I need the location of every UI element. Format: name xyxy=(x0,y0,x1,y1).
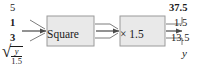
radicand: y 1.5 xyxy=(10,46,23,64)
multiply-box: × 1.5 xyxy=(120,25,165,41)
output-value-1: 37.5 xyxy=(169,3,187,14)
output-value-3: 13.5 xyxy=(171,33,189,44)
input-value-1: 5 xyxy=(10,3,15,14)
square-box: Square xyxy=(47,25,94,41)
square-box-label: Square xyxy=(47,28,79,40)
function-machine-figure: 5 1 3 √ y 1.5 Square × 1.5 37.5 1.5 13.5… xyxy=(0,0,204,64)
output-value-2: 1.5 xyxy=(174,18,187,29)
multiply-box-label: × 1.5 xyxy=(120,28,144,40)
radicand-denominator: 1.5 xyxy=(11,56,22,65)
input-general-radical: √ y 1.5 xyxy=(2,45,23,64)
input-value-2: 1 xyxy=(10,18,15,29)
output-general-variable: y xyxy=(182,48,187,59)
radicand-numerator: y xyxy=(15,47,19,56)
